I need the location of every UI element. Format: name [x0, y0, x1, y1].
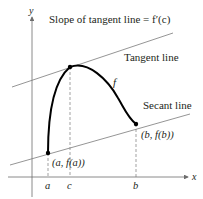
point-b	[134, 122, 138, 126]
point-a	[46, 151, 50, 155]
slope-title: Slope of tangent line = f′(c)	[49, 13, 171, 26]
x-axis-label: x	[191, 171, 197, 182]
curve-f	[48, 66, 136, 153]
curve-label: f	[113, 76, 118, 88]
y-axis-label: y	[28, 5, 34, 16]
secant-line-label: Secant line	[143, 99, 192, 111]
tick-c-label: c	[67, 180, 72, 191]
tangent-line-label: Tangent line	[124, 51, 179, 63]
mean-value-theorem-diagram: y x Slope of tangent line = f′(c) Tangen…	[0, 0, 203, 199]
point-c	[68, 65, 72, 69]
point-b-label: (b, f(b))	[141, 129, 174, 141]
point-a-label: (a, f(a))	[52, 157, 85, 169]
tick-b-label: b	[133, 180, 138, 191]
tick-a-label: a	[45, 180, 50, 191]
